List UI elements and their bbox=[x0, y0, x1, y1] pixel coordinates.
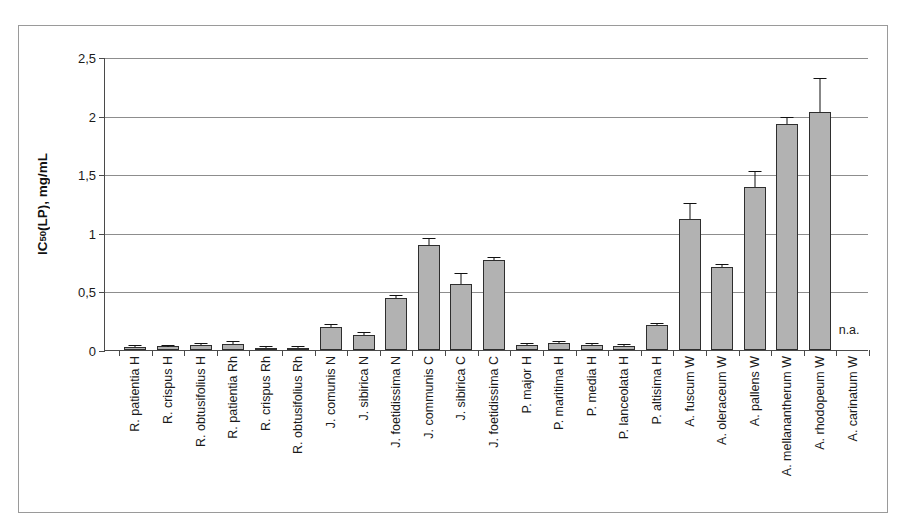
bar-slot: P. altisima H bbox=[641, 58, 674, 350]
bar-slot: A. rhodopeum W bbox=[804, 58, 837, 350]
x-axis-tick-label: A. mellanantherum W bbox=[781, 356, 794, 476]
x-axis-tick-label: A. rhodopeum W bbox=[814, 356, 827, 450]
error-bar bbox=[591, 344, 592, 345]
x-axis-label-wrapper: R. patientia Rh bbox=[217, 350, 250, 510]
x-axis-tick-label: A. carinatum W bbox=[846, 356, 859, 441]
error-bar-cap bbox=[455, 273, 468, 274]
y-axis-title: IC50(LP), mg/mL bbox=[31, 58, 53, 351]
error-bar bbox=[820, 79, 821, 112]
error-bar bbox=[233, 342, 234, 343]
error-bar-cap bbox=[683, 203, 696, 204]
bar-slot: J. sibirica N bbox=[347, 58, 380, 350]
bar-slot: A. fuscum W bbox=[673, 58, 706, 350]
bar-slot: R. patientia H bbox=[119, 58, 152, 350]
error-bar-cap bbox=[227, 341, 240, 342]
x-axis-tick-label: A. oleraceum W bbox=[716, 356, 729, 445]
bar[interactable] bbox=[646, 325, 668, 350]
x-axis-tick-label: J. communis C bbox=[423, 356, 436, 439]
plot-area: 00,511,522,5R. patientia HR. crispus HR.… bbox=[104, 58, 868, 351]
y-axis-tick-label: 0 bbox=[89, 344, 96, 359]
error-bar bbox=[559, 342, 560, 343]
bar-slot: R. crispus H bbox=[152, 58, 185, 350]
bar-slot: A. mellanantherum W bbox=[771, 58, 804, 350]
y-axis-title-prefix: IC bbox=[35, 242, 50, 256]
x-axis-label-wrapper: J. sibirica N bbox=[347, 350, 380, 510]
y-axis-tick-label: 1 bbox=[89, 226, 96, 241]
x-axis-label-wrapper: A. mellanantherum W bbox=[771, 350, 804, 510]
x-axis-tick-label: J. foetidissima N bbox=[390, 356, 403, 448]
bar[interactable] bbox=[385, 298, 407, 350]
bar[interactable] bbox=[483, 260, 505, 350]
bar-slot: P. major H bbox=[510, 58, 543, 350]
x-axis-tick-label: A. pallens W bbox=[749, 356, 762, 426]
x-axis-label-wrapper: A. oleraceum W bbox=[706, 350, 739, 510]
error-bar bbox=[624, 345, 625, 346]
y-axis-tick bbox=[99, 292, 105, 293]
x-axis-tick-label: R. obtusifolius Rh bbox=[292, 356, 305, 454]
x-axis-tick-label: R. obtusifolius H bbox=[194, 356, 207, 447]
x-axis-tick-label: R. patientia H bbox=[129, 356, 142, 432]
error-bar-cap bbox=[585, 343, 598, 344]
x-axis-tick bbox=[869, 350, 870, 356]
bar-slot: A. pallens W bbox=[739, 58, 772, 350]
bar-slot: J. foetidissima N bbox=[380, 58, 413, 350]
bar-slot: P. lanceolata H bbox=[608, 58, 641, 350]
y-axis-tick-label: 2 bbox=[89, 109, 96, 124]
x-axis-label-wrapper: P. major H bbox=[510, 350, 543, 510]
x-axis-tick-label: P. altisima H bbox=[651, 356, 664, 425]
bar[interactable] bbox=[711, 267, 733, 350]
bar-slot: R. crispus Rh bbox=[249, 58, 282, 350]
x-axis-label-wrapper: R. obtusifolius Rh bbox=[282, 350, 315, 510]
bar[interactable] bbox=[809, 112, 831, 350]
error-bar bbox=[722, 265, 723, 267]
bar[interactable] bbox=[418, 245, 440, 350]
error-bar-cap bbox=[618, 344, 631, 345]
x-axis-label-wrapper: R. crispus Rh bbox=[249, 350, 282, 510]
bar-slot: J. foetidissima C bbox=[478, 58, 511, 350]
bar-slot: R. obtusifolius Rh bbox=[282, 58, 315, 350]
error-bar bbox=[330, 325, 331, 327]
bar[interactable] bbox=[450, 284, 472, 350]
bar[interactable] bbox=[776, 124, 798, 350]
bar[interactable] bbox=[320, 327, 342, 350]
bar-slot: J. sibirica C bbox=[445, 58, 478, 350]
error-bar-cap bbox=[129, 345, 142, 346]
x-axis-tick-label: J. sibirica N bbox=[357, 356, 370, 421]
x-axis-tick-label: R. patientia Rh bbox=[227, 356, 240, 439]
x-axis-label-wrapper: A. pallens W bbox=[739, 350, 772, 510]
x-axis-tick bbox=[119, 350, 120, 356]
bar-slot: R. obtusifolius H bbox=[184, 58, 217, 350]
x-axis-label-wrapper: P. maritima H bbox=[543, 350, 576, 510]
x-axis-tick-label: J. sibirica C bbox=[455, 356, 468, 421]
error-bar bbox=[787, 118, 788, 124]
error-bar bbox=[396, 296, 397, 298]
bar-slot: P. maritima H bbox=[543, 58, 576, 350]
x-axis-tick-label: J. foetidissima C bbox=[488, 356, 501, 448]
error-bar bbox=[363, 333, 364, 335]
error-bar bbox=[200, 344, 201, 345]
y-axis-tick-label: 1,5 bbox=[78, 168, 96, 183]
x-axis-tick-label: P. maritima H bbox=[553, 356, 566, 430]
bar-slot: A. carinatum W bbox=[836, 58, 869, 350]
error-bar-cap bbox=[814, 78, 827, 79]
bar-slot: R. patientia Rh bbox=[217, 58, 250, 350]
error-bar bbox=[167, 346, 168, 347]
bar[interactable] bbox=[679, 219, 701, 350]
x-axis-label-wrapper: R. crispus H bbox=[152, 350, 185, 510]
x-axis-tick-label: P. major H bbox=[520, 356, 533, 413]
error-bar-cap bbox=[194, 343, 207, 344]
bar[interactable] bbox=[548, 343, 570, 350]
bar-slot: A. oleraceum W bbox=[706, 58, 739, 350]
bar[interactable] bbox=[353, 335, 375, 350]
error-bar-cap bbox=[553, 341, 566, 342]
error-bar-cap bbox=[781, 117, 794, 118]
y-axis-tick-label: 2,5 bbox=[78, 51, 96, 66]
x-axis-label-wrapper: J. foetidissima N bbox=[380, 350, 413, 510]
error-bar bbox=[689, 204, 690, 219]
bar-slot: J. comunis N bbox=[315, 58, 348, 350]
bar[interactable] bbox=[744, 187, 766, 350]
error-bar bbox=[657, 324, 658, 325]
y-axis-tick bbox=[99, 234, 105, 235]
x-axis-tick-label: P. lanceolata H bbox=[618, 356, 631, 439]
error-bar-cap bbox=[324, 324, 337, 325]
